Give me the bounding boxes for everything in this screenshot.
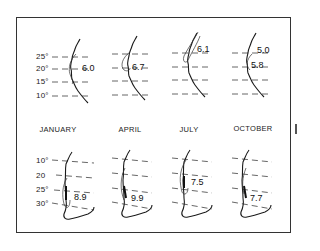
month-label-july: JULY (159, 125, 219, 134)
lat-label-top-25: 25° (36, 52, 49, 61)
value-october-bottom: 7.7 (250, 193, 263, 203)
lat-label-bottom-10: 10° (36, 156, 49, 165)
lat-label-bottom-25: 25° (36, 185, 49, 194)
lat-label-top-15: 15° (36, 77, 49, 86)
top-row-zone-outlines (69, 32, 252, 84)
lat-label-bottom-30: 30° (36, 199, 49, 208)
value-january-bottom: 8.9 (74, 192, 87, 202)
month-label-october: OCTOBER (223, 124, 283, 133)
month-label-january: JANUARY (28, 125, 88, 134)
bottom-row-zone-outlines (63, 160, 246, 207)
lat-label-top-10: 10° (36, 91, 49, 100)
lat-label-top-20: 20° (36, 64, 49, 73)
value-october-top-2: 5.8 (251, 60, 264, 70)
value-july-bottom: 7.5 (191, 177, 204, 187)
lat-label-bottom-20: 20 (36, 171, 45, 180)
value-july-top: 6.1 (197, 44, 210, 54)
bottom-row-bold-segments (66, 176, 246, 200)
bottom-row-dashes (52, 158, 272, 210)
value-october-top-1: 5.0 (257, 45, 270, 55)
top-row-coastlines (71, 33, 264, 103)
month-label-april: APRIL (100, 125, 160, 134)
top-row-dashes (52, 53, 272, 96)
value-april-bottom: 9.9 (131, 193, 144, 203)
value-april-top: 6.7 (132, 62, 145, 72)
value-january-top: 6.0 (82, 63, 95, 73)
bottom-row-coastlines (64, 150, 271, 219)
